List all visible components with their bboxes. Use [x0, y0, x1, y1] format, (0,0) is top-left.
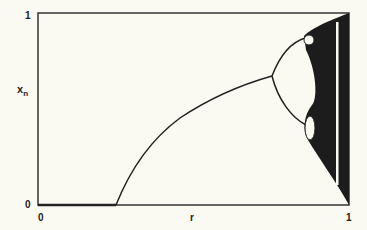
y-axis-label-sub: n: [23, 89, 28, 98]
period4-lower-bubble: [305, 116, 315, 140]
period2-upper: [272, 38, 305, 76]
bifurcation-plot: [0, 0, 367, 230]
y-tick-bottom: 0: [25, 200, 31, 210]
period4-upper-bubble: [304, 35, 314, 45]
y-tick-top: 1: [25, 11, 31, 21]
x-tick-left: 0: [38, 213, 44, 223]
y-axis-label: xn: [17, 84, 28, 99]
period2-lower: [272, 76, 306, 125]
period3-window: [336, 22, 339, 185]
stable-branch: [116, 76, 272, 205]
x-axis-label: r: [190, 213, 194, 223]
x-tick-right: 1: [346, 213, 352, 223]
